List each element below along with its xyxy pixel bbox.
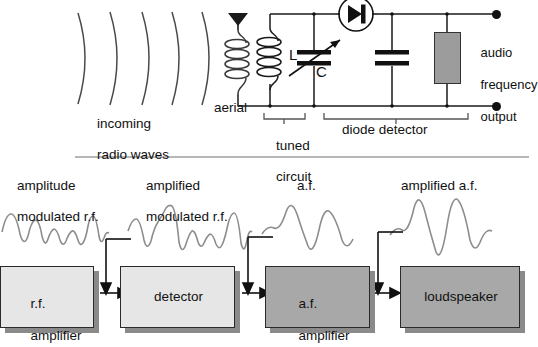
diode-in-circle-icon — [335, 0, 378, 31]
incoming-label-line2: radio waves — [97, 147, 169, 162]
signal-label-line1: amplified — [146, 178, 200, 193]
signal-label-line1: amplitude — [17, 178, 76, 193]
af-output-line3: output — [480, 109, 516, 124]
tuned-label-line1: tuned — [276, 138, 310, 153]
output-terminal-bottom — [492, 102, 501, 111]
incoming-label-line1: incoming — [97, 116, 151, 131]
block-label-line1: a.f. — [299, 296, 318, 311]
block-rf-amplifier[interactable]: r.f. amplifier — [0, 266, 94, 328]
diode-detector-label: diode detector — [342, 122, 428, 138]
block-loudspeaker-label: loudspeaker — [401, 289, 521, 305]
inductor-label: L — [289, 47, 297, 63]
waveform-af — [262, 205, 353, 249]
signal-label-amplified-modulated-rf: amplified modulated r.f. — [131, 162, 228, 240]
inductor-L-icon — [257, 28, 281, 90]
capacitor-label: C — [316, 64, 327, 80]
block-rf-amplifier-label: r.f. amplifier — [8, 280, 82, 347]
aerial-antenna-icon — [228, 13, 248, 30]
signal-label-af: a.f. — [297, 178, 316, 194]
af-output-line1: audio — [480, 45, 512, 60]
waveform-amplified-af — [390, 199, 492, 255]
signal-label-amplified-af: amplified a.f. — [401, 178, 478, 194]
signal-label-line2: modulated r.f. — [17, 209, 99, 224]
block-detector-label: detector — [121, 289, 236, 305]
signal-label-amplitude-modulated-rf: amplitude modulated r.f. — [2, 162, 99, 240]
block-af-amplifier-label: a.f. amplifier — [276, 280, 350, 347]
block-loudspeaker[interactable]: loudspeaker — [400, 266, 520, 328]
block-label-line2: amplifier — [31, 328, 82, 343]
resistor-block-icon — [434, 32, 461, 84]
block-label-line2: amplifier — [299, 328, 350, 343]
output-terminal-top — [492, 10, 501, 19]
aerial-label: aerial — [214, 100, 247, 116]
radio-wave-arcs — [78, 12, 209, 105]
audio-frequency-output-label: audio frequency output — [466, 29, 538, 141]
af-output-line2: frequency — [480, 77, 537, 92]
block-af-amplifier[interactable]: a.f. amplifier — [265, 266, 370, 328]
signal-label-line2: modulated r.f. — [146, 209, 228, 224]
block-label-line1: r.f. — [31, 296, 46, 311]
block-detector[interactable]: detector — [120, 266, 235, 328]
capacitor-icon — [375, 50, 409, 66]
